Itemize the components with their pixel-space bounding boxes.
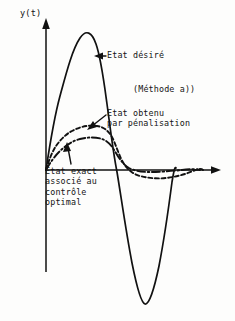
x-axis-arrowhead	[211, 166, 221, 174]
annotation-exact-state: Etat exact associé au contrôle optimal	[45, 166, 97, 208]
y-axis	[42, 18, 50, 272]
plot-area	[0, 0, 235, 321]
annotation-penalized-state: Etat obtenu par pénalisation	[107, 108, 190, 129]
y-axis-label: y(t)	[20, 8, 41, 18]
annotation-method: (Méthode a))	[133, 84, 195, 94]
leader-exact-state	[63, 142, 71, 164]
y-axis-arrowhead	[42, 18, 50, 29]
figure-canvas: y(t) Etat désiré (Méthode a)) Etat obten…	[0, 0, 235, 321]
annotation-desired-state: Etat désiré	[107, 50, 164, 60]
